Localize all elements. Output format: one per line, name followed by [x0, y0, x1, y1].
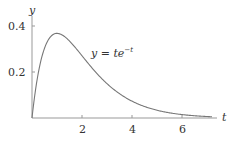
y-tick-label-02: 0.2 [8, 67, 26, 78]
x-tick-label-4: 4 [129, 124, 136, 135]
curve-annotation-base: y = te [91, 47, 124, 60]
curve-annotation-exponent: −t [124, 46, 133, 54]
curve-annotation: y = te−t [91, 47, 133, 59]
chart-area: y t 0.4 0.2 2 4 6 y = te−t [0, 0, 234, 141]
x-tick-label-6: 6 [179, 124, 186, 135]
y-tick-label-04: 0.4 [8, 21, 26, 32]
x-axis-label: t [222, 112, 226, 123]
x-tick-label-2: 2 [79, 124, 86, 135]
y-axis-label: y [29, 5, 35, 16]
plot-svg [0, 0, 234, 141]
